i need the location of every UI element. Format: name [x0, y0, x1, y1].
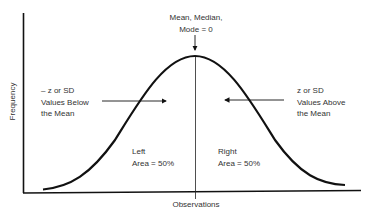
right-area-label: Right Area = 50%: [218, 146, 260, 169]
center-label: Mean, Median, Mode = 0: [165, 12, 227, 35]
left-callout-line1: – z or SD: [41, 85, 89, 97]
x-axis-label: Observations: [160, 199, 232, 211]
left-area-line2: Area = 50%: [132, 158, 174, 170]
left-callout-line2: Values Below: [41, 97, 89, 109]
left-area-label: Left Area = 50%: [132, 146, 174, 169]
bell-curve: [43, 56, 345, 190]
right-callout-line1: z or SD: [297, 85, 345, 97]
right-callout: z or SD Values Above the Mean: [297, 85, 345, 120]
right-area-line2: Area = 50%: [218, 158, 260, 170]
right-callout-line3: the Mean: [297, 108, 345, 120]
y-axis-label: Frequency: [8, 82, 17, 122]
x-axis: [23, 191, 361, 194]
right-callout-line2: Values Above: [297, 97, 345, 109]
left-callout-line3: the Mean: [41, 108, 89, 120]
right-area-line1: Right: [218, 146, 260, 158]
left-area-line1: Left: [132, 146, 174, 158]
left-callout: – z or SD Values Below the Mean: [41, 85, 89, 120]
center-label-line1: Mean, Median,: [165, 12, 227, 24]
center-label-line2: Mode = 0: [165, 24, 227, 36]
